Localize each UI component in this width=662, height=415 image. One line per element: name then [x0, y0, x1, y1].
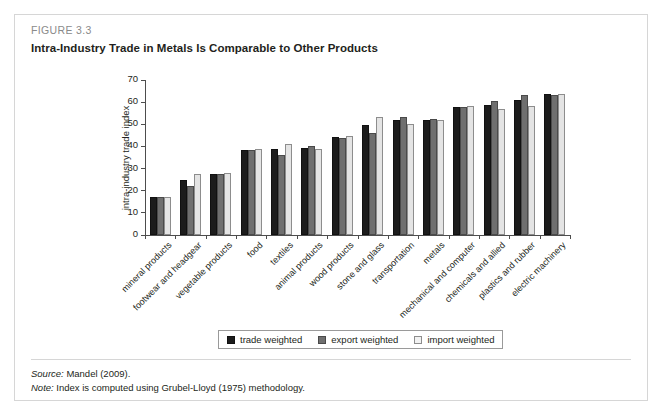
- note-label: Note:: [31, 382, 54, 393]
- bar: [315, 149, 322, 235]
- y-axis-tick-label: 10: [127, 206, 138, 217]
- x-axis-label-text: metals: [421, 240, 447, 266]
- note-text: Index is computed using Grubel-Lloyd (19…: [54, 382, 305, 393]
- x-axis-labels: mineral productsfootwear and headgearveg…: [145, 238, 570, 328]
- y-axis-tick-label: 60: [127, 95, 138, 106]
- figure-title: Intra-Industry Trade in Metals Is Compar…: [31, 42, 378, 54]
- bar: [376, 117, 383, 235]
- bar: [551, 95, 558, 235]
- bar: [224, 173, 231, 235]
- legend-label-export: export weighted: [331, 334, 398, 345]
- bar: [187, 186, 194, 235]
- bar: [491, 101, 498, 235]
- bar: [346, 136, 353, 235]
- bar: [332, 137, 339, 235]
- bar: [514, 100, 521, 235]
- legend-swatch-icon-export: [318, 336, 326, 344]
- bar: [255, 149, 262, 235]
- bar: [467, 106, 474, 235]
- bar: [241, 150, 248, 235]
- footer-divider: [31, 359, 631, 360]
- bar: [484, 105, 491, 235]
- bar: [278, 155, 285, 235]
- source-label: Source:: [31, 368, 64, 379]
- bar-group: [297, 80, 327, 235]
- bar-group: [418, 80, 448, 235]
- figure-container: FIGURE 3.3 Intra-Industry Trade in Metal…: [0, 0, 662, 415]
- y-axis-tick-label: 30: [127, 162, 138, 173]
- bar: [558, 94, 565, 235]
- y-axis-tick-label: 20: [127, 184, 138, 195]
- legend-swatch-icon-trade: [227, 336, 235, 344]
- bar-group: [509, 80, 539, 235]
- bar: [150, 197, 157, 235]
- x-axis-label-text: vegetable products: [173, 240, 234, 301]
- bar: [393, 120, 400, 235]
- bar: [528, 106, 535, 235]
- bar: [437, 120, 444, 235]
- bar: [369, 133, 376, 235]
- bar: [498, 109, 505, 235]
- legend-item-trade-weighted: trade weighted: [227, 334, 302, 345]
- y-axis-tick-label: 70: [127, 73, 138, 84]
- legend-swatch-icon-import: [414, 336, 422, 344]
- legend-label-trade: trade weighted: [240, 334, 302, 345]
- bar: [157, 197, 164, 235]
- bar-groups: [145, 80, 570, 235]
- bar: [194, 174, 201, 235]
- source-text: Mandel (2009).: [64, 368, 131, 379]
- bar: [521, 95, 528, 235]
- figure-number: FIGURE 3.3: [31, 24, 92, 36]
- note-line: Note: Index is computed using Grubel-Llo…: [31, 382, 305, 393]
- bar: [164, 197, 171, 235]
- bar-group: [358, 80, 388, 235]
- bar: [210, 174, 217, 235]
- bar: [271, 149, 278, 235]
- legend-item-export-weighted: export weighted: [318, 334, 398, 345]
- bar: [248, 150, 255, 235]
- bar-group: [145, 80, 175, 235]
- bar: [460, 107, 467, 235]
- bar-group: [540, 80, 570, 235]
- y-axis-tick-label: 40: [127, 139, 138, 150]
- x-axis-label-text: food: [245, 240, 264, 259]
- bar-group: [327, 80, 357, 235]
- x-axis-tick-mark: [570, 235, 571, 239]
- y-axis-tick-label: 50: [127, 117, 138, 128]
- source-line: Source: Mandel (2009).: [31, 368, 130, 379]
- bar: [308, 146, 315, 235]
- bar: [400, 117, 407, 235]
- bar: [180, 180, 187, 235]
- bar: [339, 138, 346, 235]
- bar: [217, 174, 224, 235]
- bar: [285, 144, 292, 235]
- bar-group: [236, 80, 266, 235]
- plot-area: 010203040506070: [145, 80, 570, 235]
- bar: [423, 120, 430, 235]
- bar-group: [388, 80, 418, 235]
- y-axis-tick-label: 0: [133, 228, 138, 239]
- x-axis-label-text: electric machinery: [510, 240, 568, 298]
- bar-group: [175, 80, 205, 235]
- bar: [301, 148, 308, 235]
- chart-legend: trade weighted export weighted import we…: [218, 330, 503, 349]
- bar-group: [449, 80, 479, 235]
- x-axis-label-text: textiles: [268, 240, 295, 267]
- legend-label-import: import weighted: [427, 334, 494, 345]
- bar: [453, 107, 460, 235]
- bar: [430, 119, 437, 235]
- bar-group: [266, 80, 296, 235]
- legend-item-import-weighted: import weighted: [414, 334, 494, 345]
- bar: [544, 94, 551, 235]
- bar-group: [206, 80, 236, 235]
- bar: [362, 125, 369, 235]
- bar: [407, 124, 414, 235]
- bar-group: [479, 80, 509, 235]
